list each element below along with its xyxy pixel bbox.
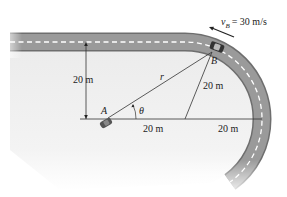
label-theta: θ: [139, 105, 144, 116]
velocity-arrow-line: [212, 28, 234, 37]
label-horizontal-left-20m: 20 m: [143, 123, 164, 134]
label-r: r: [160, 71, 164, 82]
label-diagonal-20m: 20 m: [203, 80, 224, 91]
label-vertical-20m: 20 m: [73, 74, 94, 85]
left-fade: [0, 28, 22, 58]
label-point-b: B: [211, 55, 217, 66]
velocity-label: vB= 30 m/s: [221, 16, 267, 30]
label-horizontal-right-20m: 20 m: [218, 123, 239, 134]
diagram-canvas: 20 m r 20 m θ 20 m 20 m A B vB= 30 m/s: [0, 0, 287, 197]
label-point-a: A: [100, 105, 108, 116]
bottom-fade: [180, 160, 287, 197]
kinematics-diagram: 20 m r 20 m θ 20 m 20 m A B vB= 30 m/s: [0, 0, 287, 197]
